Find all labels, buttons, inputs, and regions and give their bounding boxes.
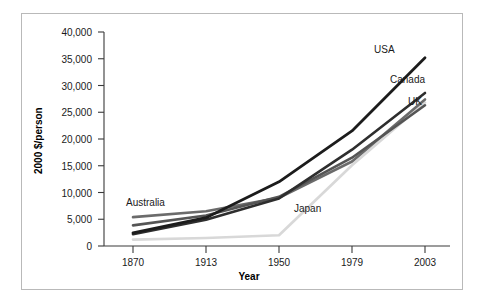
y-tick-label-25000: 25,000 (36, 108, 92, 118)
y-axis-title: 2000 $/person (34, 107, 44, 174)
series-label-usa: USA (374, 45, 395, 55)
y-tick-label-5000: 5,000 (36, 215, 92, 225)
series-label-japan: Japan (294, 204, 321, 214)
x-tick-label-1979: 1979 (322, 258, 382, 268)
series-line-uk (133, 105, 425, 225)
series-line-usa (133, 58, 425, 233)
chart-frame: 40,000 35,000 30,000 25,000 20,000 15,00… (21, 13, 463, 290)
series-label-uk: UK (408, 97, 422, 107)
x-axis-ticks (133, 246, 425, 253)
y-tick-label-10000: 10,000 (36, 189, 92, 199)
x-tick-label-2003: 2003 (395, 258, 455, 268)
x-axis-title: Year (219, 272, 279, 282)
y-tick-label-40000: 40,000 (36, 28, 92, 38)
x-tick-label-1913: 1913 (176, 258, 236, 268)
y-tick-label-30000: 30,000 (36, 82, 92, 92)
y-axis-ticks (98, 32, 104, 246)
y-tick-label-20000: 20,000 (36, 135, 92, 145)
series-label-australia: Australia (126, 198, 165, 208)
axis-group (104, 32, 450, 246)
x-tick-label-1870: 1870 (103, 258, 163, 268)
y-tick-label-15000: 15,000 (36, 162, 92, 172)
series-label-canada: Canada (390, 75, 425, 85)
x-tick-label-1950: 1950 (249, 258, 309, 268)
y-tick-label-0: 0 (36, 242, 92, 252)
figure-canvas: 40,000 35,000 30,000 25,000 20,000 15,00… (0, 0, 484, 304)
y-tick-label-35000: 35,000 (36, 55, 92, 65)
